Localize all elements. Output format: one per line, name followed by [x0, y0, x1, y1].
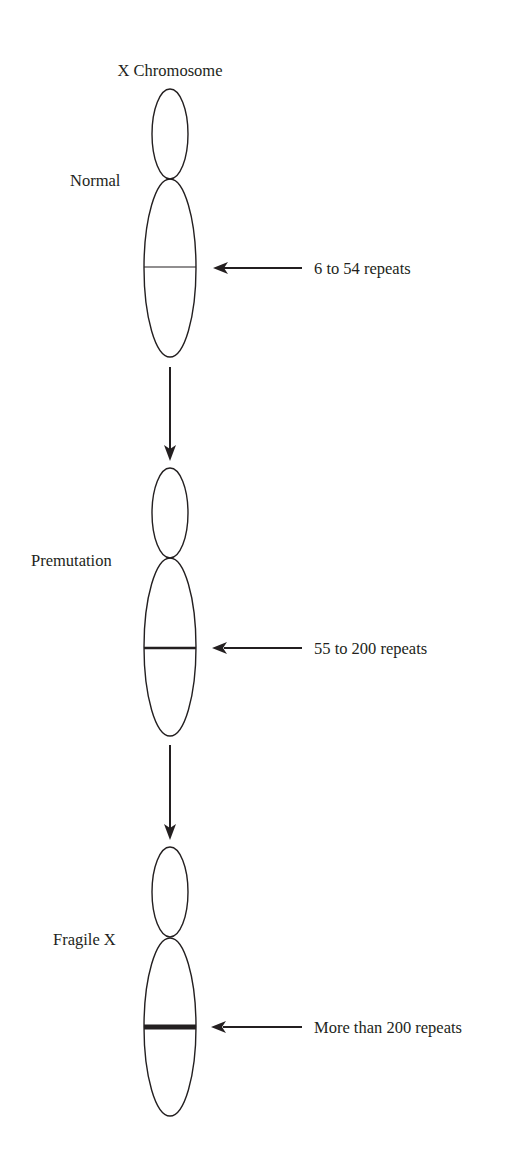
short-arm — [152, 89, 188, 179]
short-arm — [152, 468, 188, 558]
stage-label-premutation: Premutation — [31, 551, 112, 570]
stage-label-normal: Normal — [70, 171, 121, 190]
fragile-x-diagram: X Chromosome Normal 6 to 54 repeats Prem… — [0, 0, 529, 1174]
down-arrow-2 — [164, 745, 176, 840]
stage-label-fragile-x: Fragile X — [53, 930, 116, 949]
repeats-label-premutation: 55 to 200 repeats — [314, 639, 427, 658]
chromosome-fragile-x — [144, 847, 196, 1116]
diagram-title: X Chromosome — [118, 61, 223, 80]
down-arrow-1 — [164, 367, 176, 461]
chromosome-premutation — [144, 468, 196, 736]
chromosome-normal — [144, 89, 196, 357]
long-arm — [144, 179, 196, 357]
repeats-label-normal: 6 to 54 repeats — [314, 259, 411, 278]
pointer-arrow-premutation — [212, 642, 302, 654]
short-arm — [152, 847, 188, 937]
pointer-arrow-normal — [213, 262, 302, 274]
repeats-label-fragile-x: More than 200 repeats — [314, 1018, 462, 1037]
pointer-arrow-fragile-x — [211, 1021, 302, 1033]
